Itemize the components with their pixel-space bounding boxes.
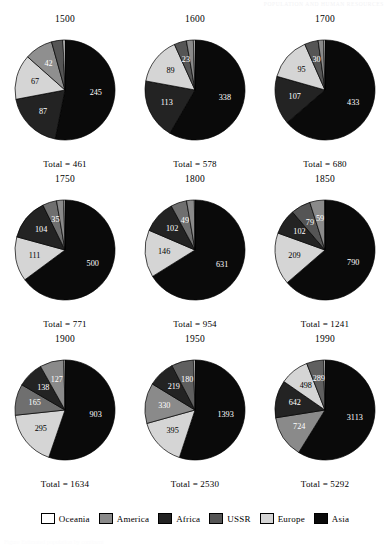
legend-item-asia[interactable]: Asia	[314, 513, 349, 524]
slice-value-label: 102	[166, 224, 178, 233]
panel-year-label: 1750	[0, 174, 130, 185]
slice-value-label: 42	[45, 59, 53, 68]
slice-value-label: 245	[90, 88, 102, 97]
panel-total-label: Total = 1241	[260, 319, 390, 329]
slice-value-label: 903	[89, 410, 101, 419]
slice-value-label: 95	[298, 65, 306, 74]
panel-year-label: 1800	[130, 174, 260, 185]
legend-swatch	[158, 513, 172, 524]
pie-panel: 16003381138923133Total = 578	[130, 14, 260, 174]
slice-value-label: 330	[158, 401, 170, 410]
panel-year-label: 1900	[0, 334, 130, 345]
slice-value-label: 219	[168, 382, 180, 391]
panel-total-label: Total = 578	[130, 159, 260, 169]
pie-graphic: 245876742173	[13, 38, 117, 142]
slice-value-label: 395	[166, 426, 178, 435]
slice-value-label: 724	[293, 422, 305, 431]
legend-swatch	[260, 513, 274, 524]
legend-swatch	[209, 513, 223, 524]
panel-total-label: Total = 771	[0, 319, 130, 329]
slice-value-label: 59	[316, 214, 324, 223]
slice-value-label: 87	[39, 107, 47, 116]
slice-value-label: 79	[306, 218, 314, 227]
panel-total-label: Total = 1634	[0, 479, 130, 489]
slice-value-label: 111	[29, 251, 41, 260]
slice-value-label: 165	[29, 398, 41, 407]
running-head: POPULATION AND HUMAN RESOURCES	[0, 0, 390, 10]
panel-year-label: 1600	[130, 14, 260, 25]
pie-panel: 17004331079530123Total = 680	[260, 14, 390, 174]
slice-value-label: 104	[35, 225, 47, 234]
pie-graphic: 4331079530123	[273, 38, 377, 142]
slice-value-label: 433	[347, 98, 359, 107]
pie-graphic: 311372464249828926	[273, 358, 377, 462]
slice-value-label: 642	[289, 398, 301, 407]
legend-swatch	[314, 513, 328, 524]
panel-total-label: Total = 461	[0, 159, 130, 169]
pie-panel: 180063114610249242Total = 954	[130, 174, 260, 334]
panel-year-label: 1950	[130, 334, 260, 345]
figure-caption: Figure Estimated population by continent	[4, 538, 386, 546]
slice-value-label: 49	[181, 216, 189, 225]
panel-total-label: Total = 680	[260, 159, 390, 169]
slice-value-label: 107	[289, 92, 301, 101]
legend-item-america[interactable]: America	[99, 513, 149, 524]
legend-label: America	[117, 514, 149, 524]
slice-value-label: 146	[158, 247, 170, 256]
legend-item-ussr[interactable]: USSR	[209, 513, 250, 524]
slice-value-label: 23	[182, 55, 190, 64]
pie-chart-grid: 1500245876742173Total = 4611600338113892…	[0, 14, 390, 494]
legend-swatch	[41, 513, 55, 524]
slice-value-label: 30	[312, 55, 320, 64]
legend-label: Africa	[176, 514, 200, 524]
slice-value-label: 35	[51, 215, 59, 224]
legend-label: Asia	[332, 514, 349, 524]
panel-total-label: Total = 2530	[130, 479, 260, 489]
slice-value-label: 790	[347, 258, 359, 267]
slice-value-label: 113	[161, 98, 173, 107]
slice-value-label: 631	[216, 260, 228, 269]
panel-total-label: Total = 954	[130, 319, 260, 329]
slice-value-label: 180	[181, 375, 193, 384]
legend-item-oceania[interactable]: Oceania	[41, 513, 90, 524]
slice-value-label: 127	[51, 375, 63, 384]
slice-value-label: 67	[31, 77, 39, 86]
chart-legend: OceaniaAmericaAfricaUSSREuropeAsia	[0, 513, 390, 524]
slice-value-label: 138	[37, 383, 49, 392]
pie-graphic: 9032951651381276	[13, 358, 117, 462]
slice-value-label: 209	[288, 251, 300, 260]
pie-panel: 1990311372464249828926Total = 5292	[260, 334, 390, 494]
slice-value-label: 289	[313, 374, 325, 383]
pie-graphic: 50011110435183	[13, 198, 117, 302]
panel-year-label: 1700	[260, 14, 390, 25]
pie-graphic: 139339533021918013	[143, 358, 247, 462]
legend-label: Oceania	[59, 514, 90, 524]
legend-label: Europe	[278, 514, 305, 524]
slice-value-label: 500	[87, 259, 99, 268]
panel-year-label: 1850	[260, 174, 390, 185]
pie-panel: 19009032951651381276Total = 1634	[0, 334, 130, 494]
legend-swatch	[99, 513, 113, 524]
slice-value-label: 89	[167, 66, 175, 75]
slice-value-label: 498	[300, 381, 312, 390]
panel-year-label: 1500	[0, 14, 130, 25]
slice-value-label: 295	[35, 424, 47, 433]
pie-graphic: 63114610249242	[143, 198, 247, 302]
pie-graphic: 79020910279592	[273, 198, 377, 302]
pie-graphic: 3381138923133	[143, 38, 247, 142]
slice-value-label: 338	[219, 93, 231, 102]
panel-total-label: Total = 5292	[260, 479, 390, 489]
pie-panel: 1500245876742173Total = 461	[0, 14, 130, 174]
panel-year-label: 1990	[260, 334, 390, 345]
legend-item-europe[interactable]: Europe	[260, 513, 305, 524]
slice-value-label: 102	[293, 227, 305, 236]
legend-label: USSR	[227, 514, 250, 524]
pie-panel: 175050011110435183Total = 771	[0, 174, 130, 334]
pie-panel: 1950139339533021918013Total = 2530	[130, 334, 260, 494]
slice-value-label: 3113	[347, 413, 363, 422]
legend-item-africa[interactable]: Africa	[158, 513, 200, 524]
pie-panel: 185079020910279592Total = 1241	[260, 174, 390, 334]
slice-value-label: 1393	[217, 410, 233, 419]
